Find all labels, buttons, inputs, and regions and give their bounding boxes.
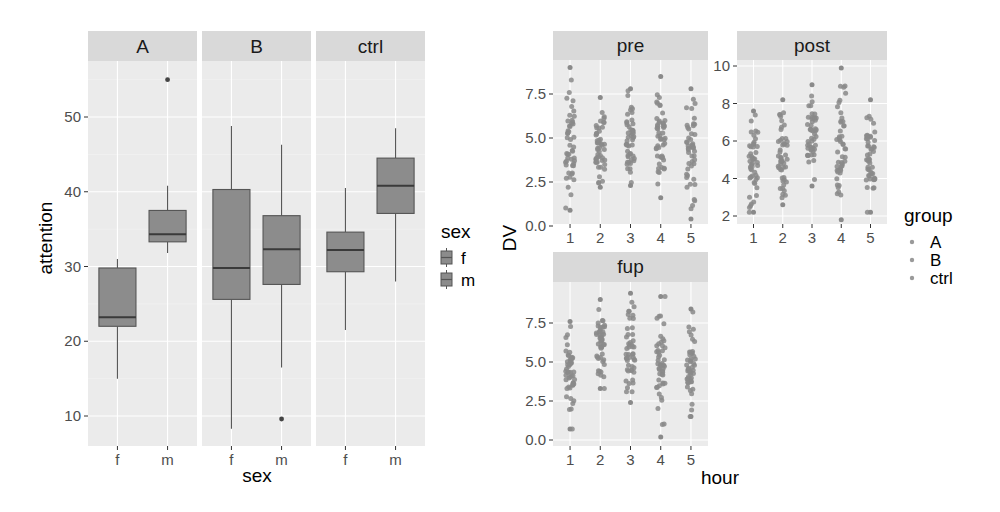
x-tick-label: 3 xyxy=(808,229,816,246)
facet-label-B: B xyxy=(250,36,263,57)
data-point xyxy=(601,342,606,347)
data-point xyxy=(686,135,691,140)
data-point xyxy=(864,115,869,120)
data-point xyxy=(866,156,871,161)
legend-dot-b xyxy=(910,258,914,262)
data-point xyxy=(872,138,877,143)
y-tick-label: 20 xyxy=(64,332,81,349)
data-point xyxy=(662,137,667,142)
data-point xyxy=(598,373,603,378)
data-point xyxy=(625,138,630,143)
x-tick-label: 2 xyxy=(779,229,787,246)
facet-label-post: post xyxy=(794,35,831,56)
data-point xyxy=(662,166,667,171)
data-point xyxy=(624,379,629,384)
data-point xyxy=(781,141,786,146)
y-tick-label: 0.0 xyxy=(525,431,546,448)
data-point xyxy=(661,338,666,343)
x-tick-label: f xyxy=(115,451,120,468)
data-point xyxy=(569,104,574,109)
data-point xyxy=(599,337,604,342)
data-point xyxy=(693,101,698,106)
data-point xyxy=(841,142,846,147)
data-point xyxy=(628,127,633,132)
data-point xyxy=(571,98,576,103)
data-point xyxy=(630,364,635,369)
data-point xyxy=(564,163,569,168)
data-point xyxy=(684,362,689,367)
data-point xyxy=(865,210,870,215)
data-point xyxy=(812,112,817,117)
data-point xyxy=(754,185,759,190)
data-point xyxy=(596,307,601,312)
legend-dot-ctrl xyxy=(910,276,914,280)
x-tick-label: 1 xyxy=(749,229,757,246)
data-point xyxy=(813,126,818,131)
data-point xyxy=(810,82,815,87)
attention-boxplot: AfmBfmctrlfm1020304050 xyxy=(64,31,425,468)
data-point xyxy=(602,386,607,391)
data-point xyxy=(663,345,668,350)
data-point xyxy=(691,327,696,332)
data-point xyxy=(566,185,571,190)
data-point xyxy=(598,325,603,330)
y-tick-label: 7.5 xyxy=(525,314,546,331)
data-point xyxy=(567,113,572,118)
y-tick-label: 40 xyxy=(64,183,81,200)
data-point xyxy=(685,384,690,389)
data-point xyxy=(839,217,844,222)
data-point xyxy=(688,216,693,221)
data-point xyxy=(658,154,663,159)
data-point xyxy=(686,325,691,330)
data-point xyxy=(656,378,661,383)
data-point xyxy=(570,118,575,123)
data-point xyxy=(598,165,603,170)
data-point xyxy=(781,183,786,188)
data-point xyxy=(630,389,635,394)
data-point xyxy=(656,145,661,150)
data-point xyxy=(806,159,811,164)
data-point xyxy=(657,161,662,166)
data-point xyxy=(692,153,697,158)
y-tick-label: 10 xyxy=(64,407,81,424)
data-point xyxy=(629,118,634,123)
data-point xyxy=(785,157,790,162)
data-point xyxy=(600,125,605,130)
right-x-axis-title: hour xyxy=(701,467,740,488)
data-point xyxy=(692,197,697,202)
data-point xyxy=(630,344,635,349)
data-point xyxy=(812,177,817,182)
data-point xyxy=(564,394,569,399)
data-point xyxy=(865,185,870,190)
data-point xyxy=(843,146,848,151)
data-point xyxy=(834,176,839,181)
y-tick-label: 6 xyxy=(722,132,730,149)
data-point xyxy=(686,150,691,155)
data-point xyxy=(662,357,667,362)
chart-canvas: AfmBfmctrlfm1020304050 pre0.02.55.07.512… xyxy=(0,0,1000,512)
data-point xyxy=(598,95,603,100)
data-point xyxy=(864,178,869,183)
data-point xyxy=(685,358,690,363)
data-point xyxy=(598,329,603,334)
data-point xyxy=(628,170,633,175)
data-point xyxy=(625,122,630,127)
data-point xyxy=(809,94,814,99)
y-tick-label: 8 xyxy=(722,95,730,112)
data-point xyxy=(841,85,846,90)
x-tick-label: m xyxy=(161,451,174,468)
data-point xyxy=(836,100,841,105)
data-point xyxy=(657,314,662,319)
data-point xyxy=(691,145,696,150)
data-point xyxy=(630,325,635,330)
data-point xyxy=(598,137,603,142)
data-point xyxy=(809,123,814,128)
data-point xyxy=(570,427,575,432)
y-tick-label: 2 xyxy=(722,207,730,224)
data-point xyxy=(689,333,694,338)
data-point xyxy=(864,133,869,138)
data-point xyxy=(688,86,693,91)
legend-label-m: m xyxy=(461,271,475,290)
data-point xyxy=(632,304,637,309)
data-point xyxy=(602,157,607,162)
